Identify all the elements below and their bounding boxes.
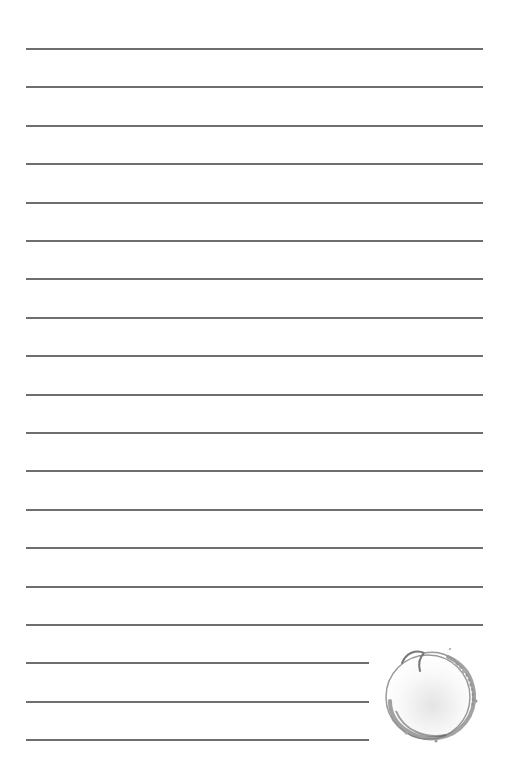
ruled-line (26, 662, 369, 664)
ruled-line (26, 48, 483, 50)
ruled-line (26, 739, 369, 741)
ruled-line (26, 163, 483, 165)
ruled-line (26, 202, 483, 204)
ruled-line (26, 701, 369, 703)
ruled-line (26, 86, 483, 88)
ruled-line (26, 470, 483, 472)
ruled-line (26, 125, 483, 127)
ruled-line (26, 586, 483, 588)
ruled-line (26, 317, 483, 319)
ruled-line (26, 278, 483, 280)
ruled-line (26, 355, 483, 357)
wreath-circle-icon (376, 641, 482, 747)
ruled-line (26, 624, 483, 626)
ruled-line (26, 394, 483, 396)
ruled-line (26, 547, 483, 549)
ruled-line (26, 509, 483, 511)
ruled-line (26, 432, 483, 434)
ruled-line (26, 240, 483, 242)
